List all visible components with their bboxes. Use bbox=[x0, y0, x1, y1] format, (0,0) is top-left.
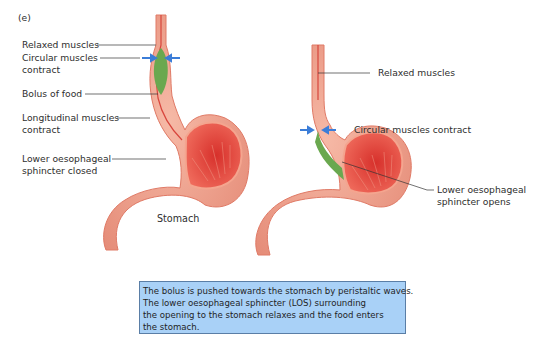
label-circular-contract-left: contract bbox=[22, 64, 60, 76]
label-stomach: Stomach bbox=[157, 213, 199, 225]
label-circular-muscles-contract-right: Circular muscles contract bbox=[354, 124, 471, 136]
caption-line: the opening to the stomach relaxes and t… bbox=[143, 309, 402, 321]
label-los-closed: sphincter closed bbox=[22, 165, 97, 177]
caption-line: The bolus is pushed towards the stomach … bbox=[143, 285, 402, 297]
label-longitudinal-contract: contract bbox=[22, 124, 60, 136]
label-relaxed-muscles-left: Relaxed muscles bbox=[22, 39, 99, 51]
label-relaxed-muscles-right: Relaxed muscles bbox=[378, 67, 455, 79]
label-bolus-of-food: Bolus of food bbox=[22, 88, 82, 100]
panel-label: (e) bbox=[18, 12, 31, 24]
label-longitudinal-muscles: Longitudinal muscles bbox=[22, 112, 119, 124]
caption-line: The lower oesophageal sphincter (LOS) su… bbox=[143, 297, 402, 309]
caption-line: the stomach. bbox=[143, 321, 402, 333]
label-los-right-1: Lower oesophageal bbox=[437, 184, 526, 196]
label-circular-muscles-left: Circular muscles bbox=[22, 52, 98, 64]
label-los-opens: sphincter opens bbox=[437, 196, 511, 208]
caption-box: The bolus is pushed towards the stomach … bbox=[139, 281, 406, 334]
label-los-left-1: Lower oesophageal bbox=[22, 153, 111, 165]
